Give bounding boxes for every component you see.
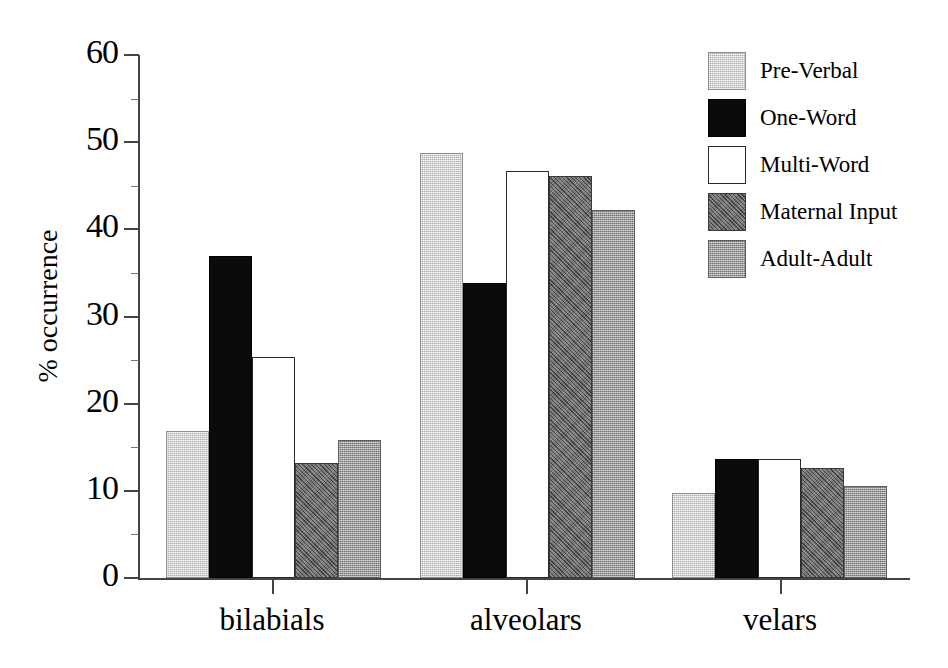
x-tick-velars	[780, 580, 782, 594]
bar-alveolars-one-word	[463, 283, 506, 578]
bar-alveolars-adult-adult	[592, 210, 635, 578]
bar-alveolars-pre-verbal	[420, 153, 463, 578]
bar-chart: % occurrence 6050403020100 bilabialsalve…	[0, 0, 948, 668]
legend-swatch-adult-adult	[708, 240, 746, 278]
bar-bilabials-one-word	[209, 256, 252, 578]
bar-velars-adult-adult	[844, 486, 887, 578]
x-axis-label-bilabials: bilabials	[132, 600, 412, 640]
bar-bilabials-multi-word	[252, 357, 295, 578]
bar-velars-maternal-input	[801, 468, 844, 578]
legend-swatch-pre-verbal	[708, 52, 746, 90]
bar-bilabials-maternal-input	[295, 463, 338, 578]
legend-label-adult-adult: Adult-Adult	[760, 242, 872, 276]
x-axis-label-alveolars: alveolars	[386, 600, 666, 640]
x-axis-label-velars: velars	[640, 600, 920, 640]
bar-velars-multi-word	[758, 459, 801, 578]
bar-velars-pre-verbal	[672, 493, 715, 578]
bar-alveolars-maternal-input	[549, 176, 592, 578]
legend-label-multi-word: Multi-Word	[760, 148, 869, 182]
x-tick-bilabials	[272, 580, 274, 594]
legend-label-pre-verbal: Pre-Verbal	[760, 54, 858, 88]
x-tick-alveolars	[526, 580, 528, 594]
bar-velars-one-word	[715, 459, 758, 578]
legend-swatch-one-word	[708, 99, 746, 137]
bar-bilabials-adult-adult	[338, 440, 381, 578]
bar-bilabials-pre-verbal	[166, 431, 209, 578]
legend-label-maternal-input: Maternal Input	[760, 195, 897, 229]
legend-label-one-word: One-Word	[760, 101, 857, 135]
bar-alveolars-multi-word	[506, 171, 549, 578]
legend-swatch-maternal-input	[708, 193, 746, 231]
legend-swatch-multi-word	[708, 146, 746, 184]
